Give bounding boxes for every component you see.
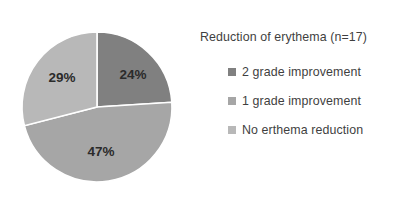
legend-title: Reduction of erythema (n=17) [200, 30, 367, 44]
pie-slices [22, 32, 172, 182]
legend-item-2-grade-improvement[interactable]: 2 grade improvement [228, 57, 400, 86]
legend-item-label: 2 grade improvement [242, 65, 361, 79]
legend-item-no-erthema-reduction[interactable]: No erthema reduction [228, 115, 400, 144]
legend: Reduction of erythema (n=17) 2 grade imp… [196, 0, 400, 211]
legend-item-1-grade-improvement[interactable]: 1 grade improvement [228, 86, 400, 115]
pie-svg: 24% 47% 29% [0, 0, 196, 211]
pie-label-1-grade-improvement: 47% [87, 144, 114, 159]
pie-plot-area: 24% 47% 29% [0, 0, 196, 211]
pie-label-2-grade-improvement: 24% [119, 67, 146, 82]
legend-swatch-icon [228, 97, 236, 105]
legend-item-list: 2 grade improvement 1 grade improvement … [228, 57, 400, 144]
legend-item-label: No erthema reduction [242, 123, 363, 137]
pie-chart-figure: 24% 47% 29% Reduction of erythema (n=17)… [0, 0, 400, 211]
legend-item-label: 1 grade improvement [242, 94, 361, 108]
legend-swatch-icon [228, 68, 236, 76]
pie-label-no-erthema-reduction: 29% [48, 70, 75, 85]
legend-swatch-icon [228, 126, 236, 134]
